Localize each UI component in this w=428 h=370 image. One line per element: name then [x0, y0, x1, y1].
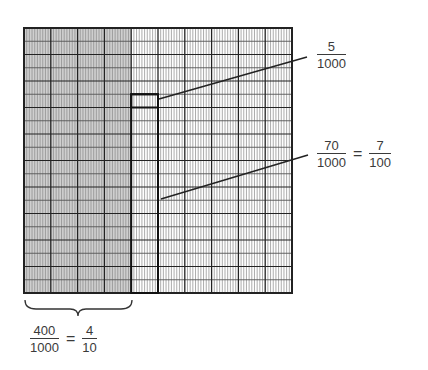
numerator: 400: [33, 324, 57, 338]
label-seventy-thousandths: 70 1000 = 7 100: [317, 139, 391, 169]
denominator: 10: [82, 339, 96, 354]
label-five-thousandths: 5 1000: [317, 40, 346, 70]
denominator: 100: [369, 154, 391, 169]
equals-sign: =: [66, 330, 75, 348]
fraction: 7 100: [369, 139, 391, 169]
fraction: 400 1000: [30, 324, 59, 354]
equals-sign: =: [353, 145, 362, 163]
grid-diagram: [0, 0, 428, 370]
denominator: 1000: [317, 55, 346, 70]
pointer-line-seventy: [161, 155, 308, 199]
fraction: 4 10: [82, 324, 96, 354]
fraction: 70 1000: [317, 139, 346, 169]
label-four-hundred-thousandths: 400 1000 = 4 10: [30, 324, 97, 354]
numerator: 4: [85, 324, 94, 338]
brace-icon: [25, 300, 132, 316]
numerator: 70: [323, 139, 339, 153]
denominator: 1000: [30, 339, 59, 354]
denominator: 1000: [317, 154, 346, 169]
numerator: 5: [327, 40, 336, 54]
fraction: 5 1000: [317, 40, 346, 70]
numerator: 7: [376, 139, 385, 153]
